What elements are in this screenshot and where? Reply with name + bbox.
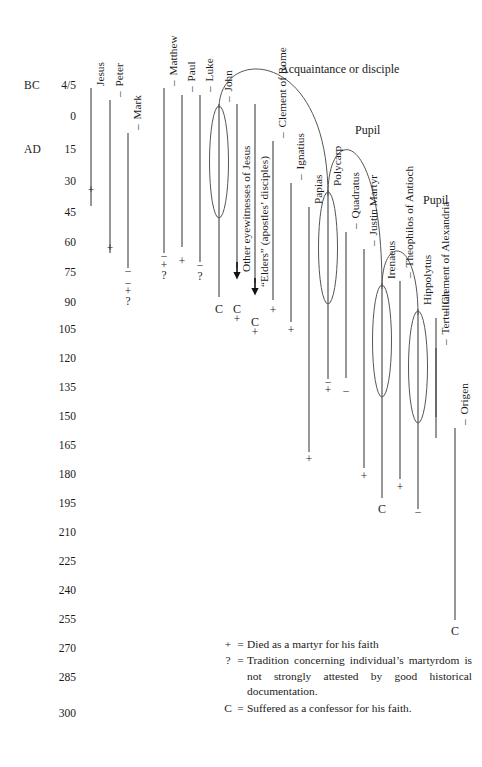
legend-text: Tradition concerning individual’s martyr…: [247, 653, 472, 699]
person-name-origen: Origen: [459, 383, 470, 425]
person-name-matthew: Matthew: [168, 35, 179, 86]
legend-text: Died as a martyr for his faith: [247, 637, 472, 652]
year-tick-210: 210: [42, 526, 76, 538]
legend-equals: =: [234, 701, 247, 716]
marker-plus-justin-martyr: +: [357, 471, 371, 483]
year-tick-60: 60: [42, 236, 76, 248]
marker-plus-papias: +: [302, 454, 316, 466]
person-name-peter: Peter: [114, 63, 125, 97]
year-tick-135: 135: [42, 381, 76, 393]
year-tick-195: 195: [42, 497, 76, 509]
marker-plus-polycarp: +: [321, 385, 335, 397]
year-tick-120: 120: [42, 352, 76, 364]
marker-qm-luke: ?: [193, 271, 207, 283]
year-tick-150: 150: [42, 410, 76, 422]
legend-symbol: ?: [222, 653, 234, 668]
era-label-ad: AD: [24, 143, 41, 155]
person-name-other-eyewitnesses-of-jesus: Other eyewitnesses of Jesus: [241, 146, 252, 272]
legend-row-C: C=Suffered as a confessor for his faith.: [222, 701, 472, 716]
marker-qm-mark: ?: [121, 296, 135, 308]
year-tick-240: 240: [42, 584, 76, 596]
annotation-pupil-2: Pupil: [423, 193, 448, 208]
person-name-hippolytus: Hippolytus: [422, 255, 433, 305]
person-name-luke: Luke: [204, 58, 215, 92]
marker-plus-clement-of-rome: +: [266, 305, 280, 317]
marker-plus-peter: +: [103, 243, 117, 255]
legend-symbol: C: [222, 701, 234, 716]
marker-plus-paul: +: [175, 256, 189, 268]
year-tick-180: 180: [42, 468, 76, 480]
year-tick-300: 300: [42, 707, 76, 719]
arrow-head-elders-apostles-disciples: [251, 288, 258, 295]
marker-plus-theophilos-of-antioch: +: [393, 482, 407, 494]
legend-row-x: ?=Tradition concerning individual’s mart…: [222, 653, 472, 699]
year-tick-285: 285: [42, 671, 76, 683]
legend-equals: =: [234, 637, 247, 652]
marker-plus-elders-apostles-disciples: +: [248, 327, 262, 339]
legend-symbol: +: [222, 637, 234, 652]
person-name-jesus: Jesus: [95, 62, 106, 86]
year-tick-4/5: 4/5: [42, 79, 76, 91]
annotation-pupil-1: Pupil: [355, 123, 380, 138]
marker-plus-ignatius: +: [284, 325, 298, 337]
year-tick-30: 30: [42, 175, 76, 187]
person-name-polycarp: Polycarp: [332, 146, 343, 186]
legend-equals: =: [234, 653, 247, 668]
marker-dsh-quadratus: –: [339, 385, 353, 396]
marker-dsh-mark: –: [121, 265, 135, 276]
person-name-theophilos-of-antioch: Theophilos of Antioch: [404, 166, 415, 278]
year-tick-270: 270: [42, 642, 76, 654]
person-name-elders-apostles-disciples: “Elders” (apostles’ disciples): [259, 156, 270, 287]
annotation-acquaintance-or-disciple-0: Acquaintance or disciple: [280, 62, 399, 77]
legend: +=Died as a martyr for his faith?=Tradit…: [222, 637, 472, 717]
marker-cf-john: C: [212, 303, 226, 315]
person-name-tertullian: Tertullian: [440, 291, 451, 345]
person-name-justin-martyr: Justin Martyr: [368, 175, 379, 246]
person-name-irenaeus: Irenaeus: [386, 241, 397, 279]
year-tick-75: 75: [42, 266, 76, 278]
marker-dsh-luke: –: [193, 259, 207, 270]
year-tick-225: 225: [42, 555, 76, 567]
year-tick-45: 45: [42, 206, 76, 218]
person-name-clement-of-rome: Clement of Rome: [277, 47, 288, 138]
person-name-papias: Papias: [313, 175, 324, 205]
marker-plus-jesus: +: [84, 185, 98, 197]
year-tick-90: 90: [42, 296, 76, 308]
era-label-bc: BC: [24, 79, 40, 91]
person-name-quadratus: Quadratus: [350, 172, 361, 229]
year-tick-0: 0: [42, 110, 76, 122]
legend-row-x: +=Died as a martyr for his faith: [222, 637, 472, 652]
arrow-head-other-eyewitnesses-of-jesus: [233, 272, 240, 279]
person-name-mark: Mark: [132, 95, 143, 130]
timeline-diagram: BCAD4/5015304560759010512013515016518019…: [0, 0, 482, 767]
year-tick-255: 255: [42, 613, 76, 625]
person-name-ignatius: Ignatius: [295, 133, 306, 180]
year-tick-105: 105: [42, 323, 76, 335]
person-name-paul: Paul: [186, 61, 197, 92]
marker-cf-origen: C: [448, 625, 462, 637]
legend-text: Suffered as a confessor for his faith.: [247, 701, 472, 716]
year-tick-165: 165: [42, 439, 76, 451]
marker-plus-other-eyewitnesses-of-jesus: +: [230, 314, 244, 326]
marker-cf-irenaeus: C: [375, 503, 389, 515]
marker-dsh-hippolytus: –: [411, 506, 425, 517]
marker-qm-matthew: ?: [157, 270, 171, 282]
person-name-john: John: [223, 70, 234, 102]
year-tick-15: 15: [42, 143, 76, 155]
